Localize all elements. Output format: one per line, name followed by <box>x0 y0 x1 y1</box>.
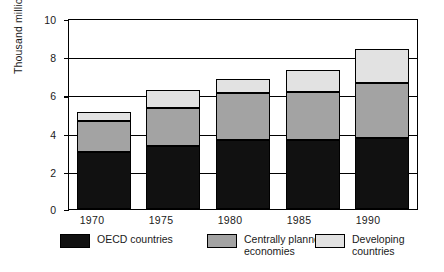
legend-label-developing: Developing countries <box>352 234 405 257</box>
x-tick-label-1970: 1970 <box>57 214 127 226</box>
legend-item-developing: Developing countries <box>315 234 405 257</box>
chart-legend: OECD countries Centrally planned economi… <box>60 234 440 268</box>
legend-label-oecd: OECD countries <box>97 234 173 246</box>
y-tick-label-8: 8 <box>50 52 56 64</box>
y-tick-label-10: 10 <box>44 14 56 26</box>
y-tick-10: 10 <box>64 20 69 21</box>
legend-item-centrally-planned: Centrally planned economies <box>207 234 326 257</box>
x-tick-label-1985: 1985 <box>264 214 334 226</box>
bar-segment-1985-0[interactable] <box>286 140 340 209</box>
bar-segment-1975-1[interactable] <box>146 108 200 146</box>
bar-segment-1970-0[interactable] <box>77 152 131 209</box>
bar-segment-1975-0[interactable] <box>146 146 200 209</box>
legend-swatch-oecd-icon <box>60 234 90 248</box>
bar-segment-1980-1[interactable] <box>216 93 270 140</box>
bar-segment-1975-2[interactable] <box>146 90 200 108</box>
bar-segment-1980-0[interactable] <box>216 140 270 209</box>
y-tick-label-0: 0 <box>50 204 56 216</box>
x-tick-label-1990: 1990 <box>333 214 403 226</box>
y-tick-label-2: 2 <box>50 167 56 179</box>
bar-segment-1990-2[interactable] <box>355 49 409 82</box>
bar-segment-1985-2[interactable] <box>286 70 340 92</box>
bar-segment-1990-1[interactable] <box>355 83 409 138</box>
bar-segment-1985-1[interactable] <box>286 92 340 140</box>
y-tick-6: 6 <box>64 96 69 97</box>
bar-segment-1990-0[interactable] <box>355 138 409 209</box>
bar-segment-1970-1[interactable] <box>77 121 131 152</box>
bar-segment-1980-2[interactable] <box>216 79 270 93</box>
stacked-bar-chart-figure: Thousand million toe 10 8 6 4 2 0 1970 1… <box>0 0 444 272</box>
bar-segment-1970-2[interactable] <box>77 112 131 121</box>
y-tick-0: 0 <box>64 210 69 211</box>
y-tick-8: 8 <box>64 58 69 59</box>
x-tick-label-1975: 1975 <box>126 214 196 226</box>
plot-area: 10 8 6 4 2 0 <box>68 19 418 210</box>
y-axis-title: Thousand million toe <box>12 0 30 74</box>
y-tick-label-6: 6 <box>50 90 56 102</box>
legend-label-centrally-planned: Centrally planned economies <box>244 234 326 257</box>
y-tick-4: 4 <box>64 135 69 136</box>
legend-item-oecd: OECD countries <box>60 234 173 248</box>
legend-swatch-developing-icon <box>315 234 345 248</box>
legend-swatch-centrally-planned-icon <box>207 234 237 248</box>
y-tick-label-4: 4 <box>50 129 56 141</box>
y-tick-2: 2 <box>64 173 69 174</box>
x-tick-label-1980: 1980 <box>195 214 265 226</box>
